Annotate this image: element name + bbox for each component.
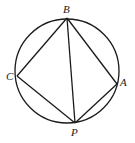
circumcircle xyxy=(15,19,119,123)
label-A: A xyxy=(119,76,127,88)
segment-CP xyxy=(17,76,75,123)
segment-AP xyxy=(75,84,117,123)
label-B: B xyxy=(63,3,70,15)
segment-BC xyxy=(17,18,67,76)
segment-BP xyxy=(67,18,75,123)
geometry-diagram: B C A P xyxy=(0,0,135,143)
segment-BA xyxy=(67,18,117,84)
label-C: C xyxy=(6,70,14,82)
label-P: P xyxy=(70,126,78,138)
